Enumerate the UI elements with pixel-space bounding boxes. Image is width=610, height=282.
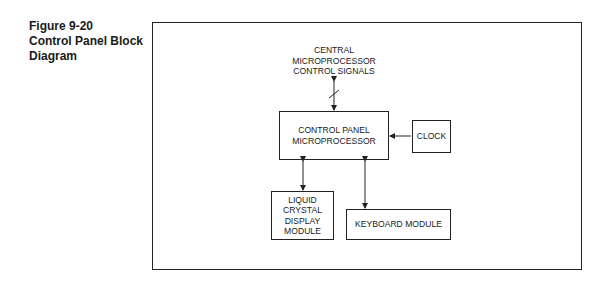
- connector-arrows: [0, 0, 610, 282]
